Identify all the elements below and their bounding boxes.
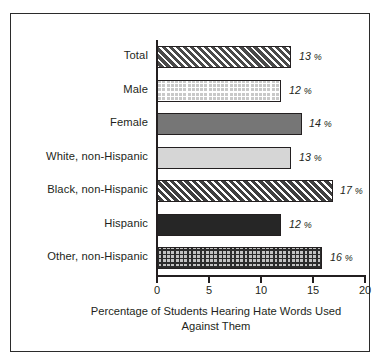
bar-other-non-hispanic	[156, 247, 322, 269]
x-tick-5	[208, 275, 210, 283]
y-axis-line	[156, 40, 158, 275]
bar-female	[156, 113, 302, 135]
x-axis-title: Percentage of Students Hearing Hate Word…	[71, 304, 361, 333]
x-tick-label-0: 0	[154, 284, 160, 296]
category-label-total: Total	[0, 49, 148, 61]
bar-male	[156, 80, 281, 102]
x-tick-label-15: 15	[307, 284, 319, 296]
x-tick-label-10: 10	[255, 284, 267, 296]
value-label-male: 12 %	[289, 84, 312, 96]
chart-figure-frame: Total Male Female White, non-Hispanic Bl…	[10, 13, 370, 352]
value-label-total: 13 %	[299, 50, 322, 62]
x-tick-label-5: 5	[206, 284, 212, 296]
bar-white-non-hispanic	[156, 147, 291, 169]
category-label-male: Male	[0, 83, 148, 95]
x-tick-10	[260, 275, 262, 283]
category-label-hispanic: Hispanic	[0, 217, 148, 229]
value-label-female: 14 %	[309, 117, 332, 129]
x-tick-15	[312, 275, 314, 283]
bar-hispanic	[156, 214, 281, 236]
bar-total	[156, 46, 291, 68]
value-label-black-non-hispanic: 17 %	[340, 184, 363, 196]
bar-chart-plot-area: Total Male Female White, non-Hispanic Bl…	[11, 14, 369, 351]
value-label-hispanic: 12 %	[289, 218, 312, 230]
x-tick-20	[364, 275, 366, 283]
category-label-white-non-hispanic: White, non-Hispanic	[0, 150, 148, 162]
x-tick-0	[156, 275, 158, 283]
x-tick-label-20: 20	[359, 284, 371, 296]
bar-black-non-hispanic	[156, 180, 333, 202]
value-label-other-non-hispanic: 16 %	[330, 251, 353, 263]
category-label-black-non-hispanic: Black, non-Hispanic	[0, 183, 148, 195]
category-label-other-non-hispanic: Other, non-Hispanic	[0, 250, 148, 262]
category-label-female: Female	[0, 116, 148, 128]
value-label-white-non-hispanic: 13 %	[299, 151, 322, 163]
